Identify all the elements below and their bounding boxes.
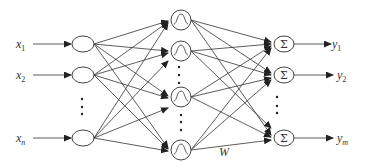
ellipsis-dot [178, 66, 180, 68]
ellipsis-dot [81, 106, 83, 108]
hidden-node-1 [171, 10, 191, 30]
ellipsis-dot [81, 113, 83, 115]
output-node-1: Σ [274, 36, 294, 52]
input-node-2 [72, 67, 94, 83]
input-label-xn: xn [15, 131, 25, 147]
input-arrows [33, 44, 71, 138]
ellipsis-dot [276, 105, 278, 107]
output-label-ym: ym [336, 131, 348, 147]
sigma-icon: Σ [280, 69, 288, 82]
hidden-layer [171, 10, 191, 160]
hidden-node-3 [171, 87, 191, 107]
output-node-m: Σ [274, 130, 294, 146]
weight-label: W [219, 145, 230, 159]
rbf-network-diagram: x1 x2 xn [0, 0, 366, 162]
ellipsis-dot [180, 121, 182, 123]
input-hidden-edges [94, 21, 168, 151]
sigma-icon: Σ [280, 132, 288, 145]
ellipsis-dot [178, 74, 180, 76]
input-node-1 [72, 36, 94, 52]
output-node-2: Σ [274, 67, 294, 83]
ellipsis-dot [180, 129, 182, 131]
output-layer: Σ Σ Σ [274, 36, 294, 146]
input-label-x1: x1 [15, 37, 25, 53]
input-labels: x1 x2 xn [15, 37, 25, 147]
ellipsis-dot [276, 96, 278, 98]
ellipsis-dot [180, 114, 182, 116]
hidden-output-edges [191, 20, 271, 150]
output-label-y2: y2 [336, 68, 346, 84]
output-label-y1: y1 [331, 37, 341, 53]
input-layer [72, 36, 94, 146]
input-node-n [72, 130, 94, 146]
output-labels: y1 y2 ym [331, 37, 348, 147]
output-arrows [294, 44, 333, 138]
ellipsis-dot [178, 82, 180, 84]
hidden-node-2 [171, 41, 191, 61]
hidden-node-4 [171, 140, 191, 160]
input-label-x2: x2 [15, 68, 25, 84]
sigma-icon: Σ [280, 38, 288, 51]
ellipsis-dot [276, 112, 278, 114]
ellipsis-dot [81, 98, 83, 100]
